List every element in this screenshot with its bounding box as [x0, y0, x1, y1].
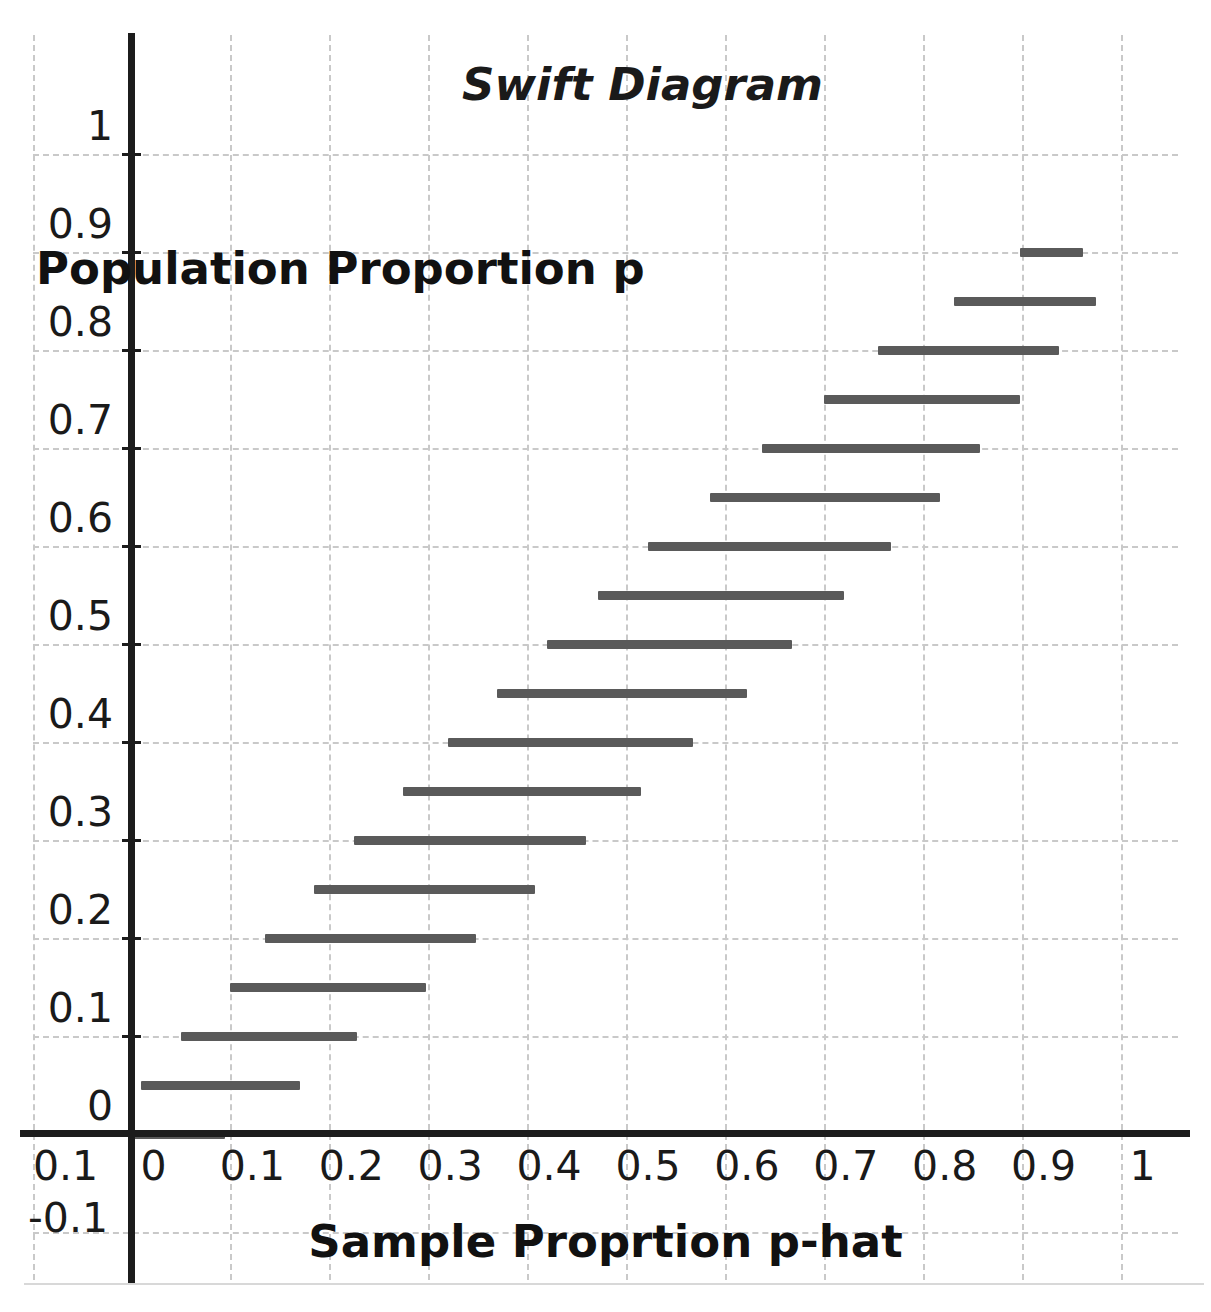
confidence-interval-segment [878, 346, 1059, 355]
y-tick-mark [122, 741, 141, 744]
y-tick-label: 0.4 [48, 694, 113, 735]
y-tick-mark [122, 937, 141, 940]
y-tick-label: 0.7 [48, 400, 113, 441]
confidence-interval-segment [314, 885, 535, 894]
x-tick-label: 0.6 [714, 1146, 779, 1187]
y-tick-label: 0.2 [48, 890, 113, 931]
y-tick-mark [122, 153, 141, 156]
confidence-interval-segment [762, 444, 980, 453]
y-tick-mark [122, 545, 141, 548]
confidence-interval-segment [354, 836, 586, 845]
chart-title: Swift Diagram [462, 62, 823, 107]
chart-page: 00.10.20.30.40.50.60.70.80.91 00.10.20.3… [0, 0, 1211, 1312]
interval-series [0, 0, 1211, 1312]
y-tick-label: 1 [87, 106, 113, 147]
x-tick-label: 0.8 [912, 1146, 977, 1187]
confidence-interval-segment [141, 1081, 299, 1090]
confidence-interval-segment [824, 395, 1020, 404]
x-tick-labels: 00.10.20.30.40.50.60.70.80.91 [0, 1146, 1211, 1196]
x-tick-label: 1 [1129, 1146, 1155, 1187]
y-tick-mark [122, 1133, 141, 1136]
x-tick-label: 0.9 [1011, 1146, 1076, 1187]
x-axis-line [20, 1130, 1190, 1137]
confidence-interval-segment [648, 542, 891, 551]
x-tick-label: 0.1 [220, 1146, 285, 1187]
y-tick-mark [122, 1035, 141, 1038]
confidence-interval-segment [230, 983, 426, 992]
y-tick-label: 0 [87, 1086, 113, 1127]
confidence-interval-segment [448, 738, 693, 747]
confidence-interval-segment [497, 689, 746, 698]
y-tick-mark [122, 447, 141, 450]
y-tick-label: 0.1 [48, 988, 113, 1029]
x-axis-negative-tick-label: 0.1 [33, 1146, 98, 1187]
y-axis-title: Population Proportion p [36, 246, 645, 291]
x-tick-label: 0 [140, 1146, 166, 1187]
x-tick-label: 0.5 [615, 1146, 680, 1187]
confidence-interval-segment [181, 1032, 357, 1041]
x-tick-label: 0.4 [516, 1146, 581, 1187]
x-axis-title: Sample Proprtion p-hat [308, 1219, 902, 1264]
y-tick-label: 0.9 [48, 204, 113, 245]
page-bottom-edge [24, 1283, 1204, 1285]
x-tick-label: 0.7 [813, 1146, 878, 1187]
y-tick-label: 0.3 [48, 792, 113, 833]
y-tick-label: 0.6 [48, 498, 113, 539]
y-tick-mark [122, 643, 141, 646]
confidence-interval-segment [954, 297, 1095, 306]
x-tick-label: 0.3 [418, 1146, 483, 1187]
y-tick-mark [122, 349, 141, 352]
confidence-interval-segment [1020, 248, 1083, 257]
confidence-interval-segment [403, 787, 640, 796]
confidence-interval-segment [547, 640, 792, 649]
y-tick-label: 0.5 [48, 596, 113, 637]
y-tick-labels: 00.10.20.30.40.50.60.70.80.91 [0, 0, 125, 1312]
confidence-interval-segment [598, 591, 843, 600]
y-axis-negative-tick-label: -0.1 [28, 1198, 108, 1239]
y-axis-line [128, 33, 135, 1283]
confidence-interval-segment [710, 493, 940, 502]
x-tick-label: 0.2 [319, 1146, 384, 1187]
y-tick-mark [122, 839, 141, 842]
confidence-interval-segment [265, 934, 476, 943]
y-tick-label: 0.8 [48, 302, 113, 343]
